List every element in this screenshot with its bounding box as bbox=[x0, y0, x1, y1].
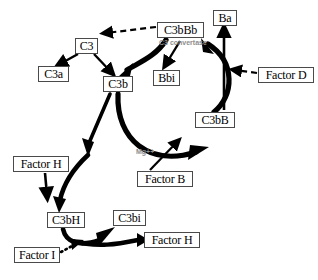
node-c3bbb[interactable]: C3bBb bbox=[157, 22, 204, 38]
node-c3bi[interactable]: C3bi bbox=[113, 210, 146, 226]
node-c3bh[interactable]: C3bH bbox=[47, 212, 85, 228]
annotation-c3-convertase: C3 convertase bbox=[159, 39, 207, 47]
node-c3bb[interactable]: C3bB bbox=[195, 112, 235, 128]
node-factor-h-lower[interactable]: Factor H bbox=[144, 232, 200, 248]
node-c3a[interactable]: C3a bbox=[38, 66, 69, 82]
complement-pathway-diagram: C3 --> curve --> bbox=[0, 0, 318, 280]
edge-c3bbb-to-c3 bbox=[106, 27, 156, 33]
node-c3[interactable]: C3 bbox=[75, 38, 98, 54]
node-c3b[interactable]: C3b bbox=[103, 76, 133, 92]
node-factor-b[interactable]: Factor B bbox=[137, 171, 193, 187]
edge-factord-to-c3bb bbox=[235, 70, 257, 73]
edge-c3-to-c3b bbox=[94, 54, 111, 72]
node-factor-h-upper[interactable]: Factor H bbox=[13, 156, 69, 172]
node-bbi[interactable]: Bbi bbox=[153, 70, 180, 86]
edge-c3b-to-c3bh bbox=[82, 94, 110, 157]
annotation-mg-cofactor: Mg++ bbox=[136, 148, 154, 156]
node-ba[interactable]: Ba bbox=[213, 10, 237, 26]
node-factor-d[interactable]: Factor D bbox=[258, 67, 314, 83]
node-factor-i[interactable]: Factor I bbox=[14, 247, 60, 263]
edge-c3-to-c3a bbox=[60, 54, 78, 64]
